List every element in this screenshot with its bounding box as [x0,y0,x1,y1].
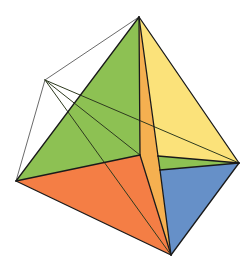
blue-face [160,163,239,255]
diagram-canvas [0,0,252,268]
tetrahedron-diagram [0,0,252,268]
